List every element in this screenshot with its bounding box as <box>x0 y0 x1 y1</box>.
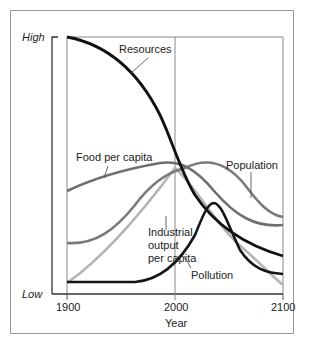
y-label-high: High <box>22 31 45 43</box>
x-axis-title: Year <box>165 317 188 329</box>
x-tick-1900: 1900 <box>56 301 80 313</box>
label-industrial-1: Industrial <box>148 226 193 238</box>
label-resources: Resources <box>119 43 172 55</box>
label-industrial-3: per capita <box>148 252 197 264</box>
label-food-per-capita: Food per capita <box>76 151 153 163</box>
label-population: Population <box>226 159 278 171</box>
limits-to-growth-chart: High Low 1900 2000 2100 Year Resources F… <box>0 0 309 352</box>
label-industrial-2: output <box>148 239 179 251</box>
y-label-low: Low <box>22 288 43 300</box>
x-tick-2000: 2000 <box>164 301 188 313</box>
x-tick-2100: 2100 <box>271 301 295 313</box>
label-pollution: Pollution <box>191 269 233 281</box>
